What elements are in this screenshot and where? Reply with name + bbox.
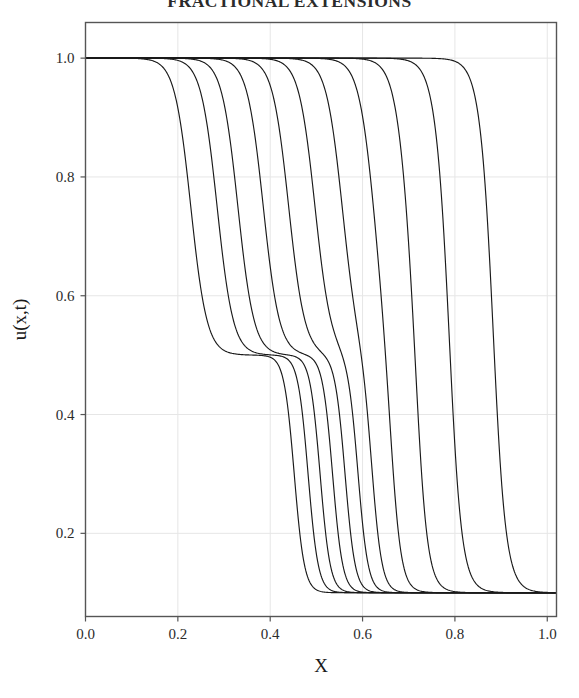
y-axis-title: u(x,t) <box>9 299 31 341</box>
plot-background <box>86 23 557 617</box>
x-tick-label-5: 1.0 <box>538 626 557 642</box>
x-tick-label-2: 0.4 <box>261 626 280 642</box>
y-tick-label-2: 0.6 <box>56 288 75 304</box>
page-root: FRACTIONAL EXTENSIONS 0.00.20.40.60.81.0… <box>0 0 579 698</box>
x-tick-label-0: 0.0 <box>76 626 95 642</box>
plot-canvas: 0.00.20.40.60.81.00.20.40.60.81.0Xu(x,t) <box>0 0 579 698</box>
x-tick-label-1: 0.2 <box>168 626 187 642</box>
figure-container: 0.00.20.40.60.81.00.20.40.60.81.0Xu(x,t) <box>0 0 579 698</box>
y-tick-label-4: 1.0 <box>56 50 75 66</box>
x-tick-label-3: 0.6 <box>353 626 372 642</box>
y-tick-label-3: 0.8 <box>56 169 75 185</box>
x-axis-title: X <box>314 655 328 676</box>
y-tick-label-1: 0.4 <box>56 407 75 423</box>
y-tick-label-0: 0.2 <box>56 525 75 541</box>
x-tick-label-4: 0.8 <box>446 626 465 642</box>
